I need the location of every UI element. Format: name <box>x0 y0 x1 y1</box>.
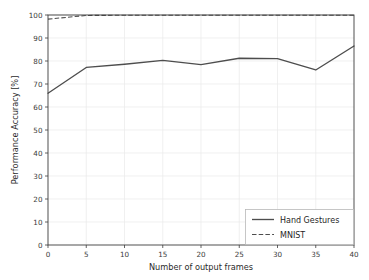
x-ticklabel-35: 35 <box>311 250 320 259</box>
chart-legend[interactable]: Hand Gestures MNIST <box>246 210 354 245</box>
y-ticklabel-50: 50 <box>33 126 43 135</box>
line-chart: 0102030405060708090100 0510152025303540 … <box>0 0 369 280</box>
chart-figure: 0102030405060708090100 0510152025303540 … <box>0 0 369 280</box>
y-ticklabel-10: 10 <box>33 218 43 227</box>
y-axis-title: Performance Accuracy [%] <box>10 76 20 185</box>
y-ticklabel-80: 80 <box>33 57 43 66</box>
x-axis-title: Number of output frames <box>149 262 253 272</box>
x-ticklabel-10: 10 <box>120 250 130 259</box>
x-ticklabel-5: 5 <box>84 250 89 259</box>
x-ticklabel-25: 25 <box>235 250 244 259</box>
x-ticklabel-20: 20 <box>196 250 206 259</box>
y-ticklabel-40: 40 <box>33 149 43 158</box>
y-ticklabel-90: 90 <box>33 34 43 43</box>
x-ticklabel-0: 0 <box>46 250 51 259</box>
y-ticklabel-0: 0 <box>38 241 43 250</box>
x-ticklabel-40: 40 <box>349 250 359 259</box>
legend-label-mnist: MNIST <box>280 231 305 240</box>
y-ticklabel-60: 60 <box>33 103 43 112</box>
x-ticklabel-15: 15 <box>158 250 167 259</box>
y-ticklabel-30: 30 <box>33 172 43 181</box>
y-ticklabel-100: 100 <box>29 11 43 20</box>
y-ticklabel-70: 70 <box>33 80 43 89</box>
x-ticklabel-30: 30 <box>273 250 283 259</box>
y-ticklabel-20: 20 <box>33 195 43 204</box>
legend-label-hand-gestures: Hand Gestures <box>280 216 339 225</box>
